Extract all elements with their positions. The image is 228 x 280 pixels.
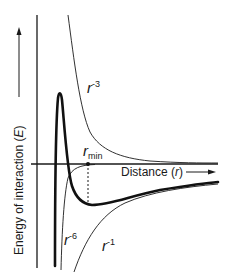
label-r-minus-6: r-6 xyxy=(64,232,77,247)
label-r-minus-3: r-3 xyxy=(87,80,100,95)
r-min-marker xyxy=(86,162,90,166)
curve-total-energy xyxy=(55,93,218,266)
x-axis-label: Distance (r) xyxy=(121,166,183,178)
curve-r-minus-1 xyxy=(74,184,218,272)
x-label-arrow-icon xyxy=(186,170,216,175)
curve-r-minus-6 xyxy=(61,165,95,271)
y-axis-label: Energy of interaction (E) xyxy=(12,126,26,255)
label-r-minus-1: r-1 xyxy=(102,238,115,253)
y-label-arrow-icon xyxy=(17,27,22,97)
label-r-min: rmin xyxy=(83,143,103,158)
